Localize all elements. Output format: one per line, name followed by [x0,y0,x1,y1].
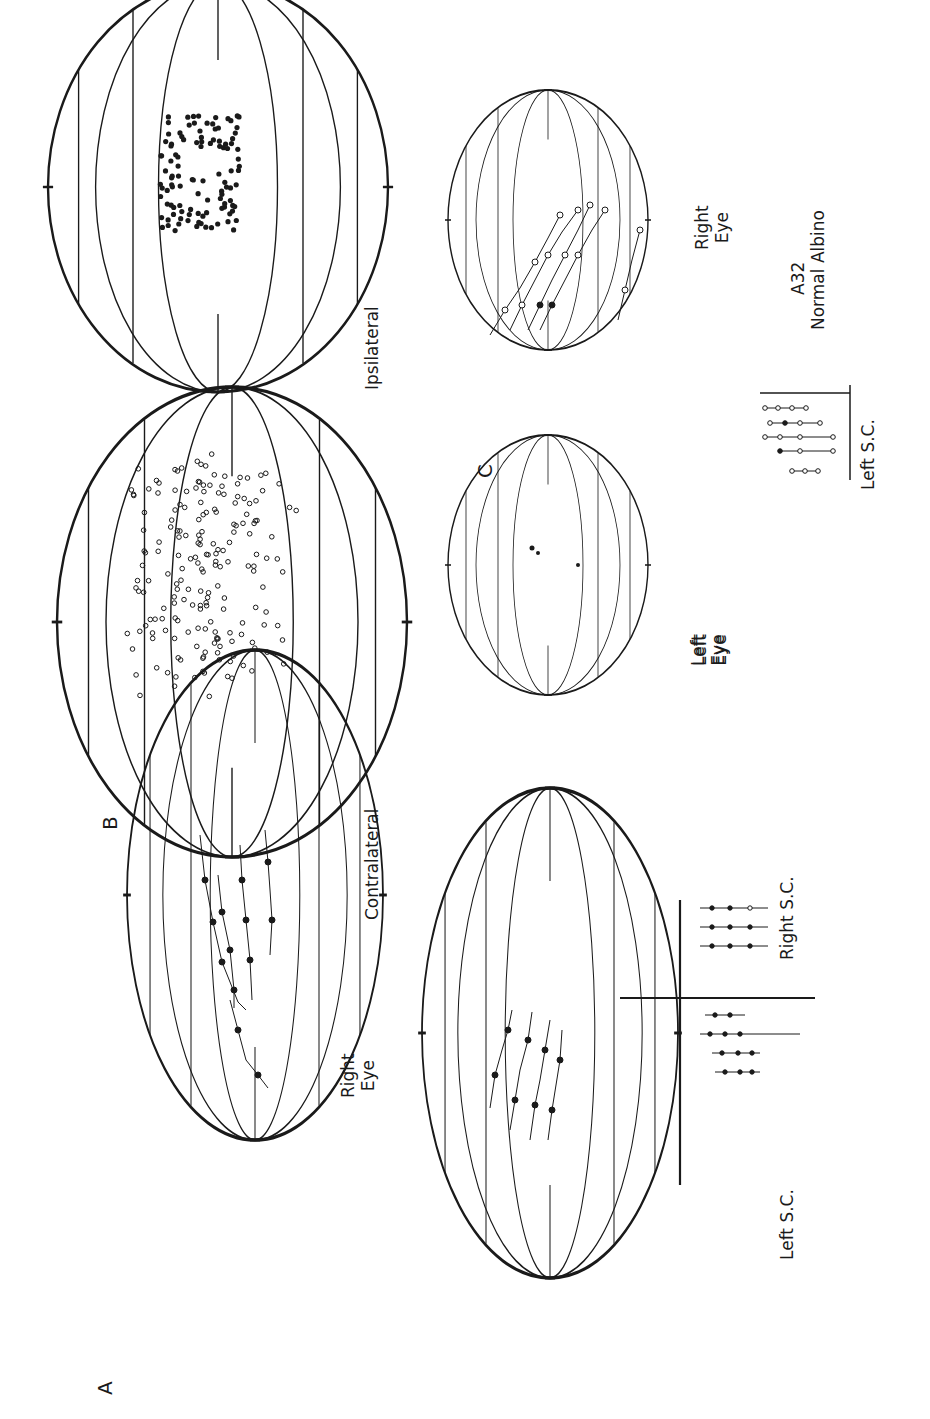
c-left-eye-label: Left Eye [690,634,730,666]
c-animal-type: Normal Albino [808,210,828,330]
panel-b-contralateral-points [125,452,299,699]
panel-a-left-eye-globe [418,788,682,1278]
a-left-sc-label: Left S.C. [777,1189,797,1260]
a-right-sc-label: Right S.C. [777,876,797,960]
c-right-eye-label: Right Eye [692,205,732,250]
panel-a-left-eye-traces [490,1010,563,1140]
b-contralateral-label: Contralateral [362,808,382,920]
panel-a-label: A [95,1381,115,1395]
c-left-sc-label: Left S.C. [858,419,878,490]
panel-b-ipsilateral-globe [43,0,393,392]
panel-b-label: B [100,816,120,830]
panel-c-left-eye-points [530,546,581,568]
b-ipsilateral-label: Ipsilateral [362,306,382,390]
c-animal-id: A32 [788,262,808,295]
panel-b-ipsilateral-points [158,113,242,233]
a-right-eye-label: Right Eye [338,1053,378,1098]
panel-c-sc-map [760,385,850,480]
panel-b-contralateral-globe [52,387,413,857]
panel-c-label: C [475,464,495,478]
